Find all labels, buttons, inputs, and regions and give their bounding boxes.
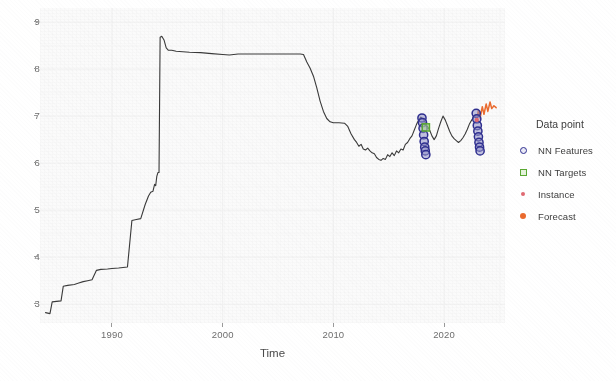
legend-title: Data point [536,118,616,130]
legend-marker-glyph [520,213,526,219]
legend-key-open-square-icon [514,163,532,181]
gridlines [40,8,505,323]
marker-nn-features [422,151,430,159]
y-tick-mark [34,162,38,163]
x-tick-label: 1990 [82,329,142,340]
x-axis-title: Time [40,347,505,359]
x-tick-mark [444,323,445,327]
y-tick: 6 [0,157,40,169]
legend-item-forecast[interactable]: Forecast [536,205,616,227]
series-history [46,36,477,313]
legend-marker-glyph [521,192,525,196]
y-tick: 3 [0,298,40,310]
legend-item-label: Instance [538,189,575,200]
x-tick-label: 2020 [414,329,474,340]
legend-item-nn-targets[interactable]: NN Targets [536,161,616,183]
y-tick: 8 [0,63,40,75]
y-tick-mark [34,115,38,116]
y-tick: 5 [0,204,40,216]
legend-item-label: Forecast [538,211,576,222]
y-tick: 7 [0,110,40,122]
legend: Data point NN FeaturesNN TargetsInstance… [536,118,616,227]
legend-item-nn-features[interactable]: NN Features [536,139,616,161]
x-tick-mark [111,323,112,327]
legend-marker-glyph [520,169,527,176]
y-tick-mark [34,209,38,210]
marker-nn-targets [422,124,429,131]
legend-item-instance[interactable]: Instance [536,183,616,205]
y-tick-mark [34,21,38,22]
legend-key-filled-dot-icon [514,207,532,225]
legend-item-label: NN Targets [538,167,586,178]
x-tick-mark [333,323,334,327]
x-tick-label: 2010 [303,329,363,340]
plot-panel [40,8,505,323]
legend-items: NN FeaturesNN TargetsInstanceForecast [536,139,616,227]
y-tick-mark [34,303,38,304]
chart-root: 3456789 1990200020102020 Time Data point… [0,0,616,381]
y-tick: 4 [0,251,40,263]
legend-key-open-circle-icon [514,141,532,159]
y-tick: 9 [0,16,40,28]
legend-key-small-dot-icon [514,185,532,203]
marker-instance [475,118,479,122]
plot-canvas [40,8,505,323]
y-tick-mark [34,68,38,69]
legend-item-label: NN Features [538,145,593,156]
x-tick-label: 2000 [193,329,253,340]
legend-marker-glyph [520,147,527,154]
marker-nn-features [476,147,484,155]
x-tick-mark [222,323,223,327]
y-tick-mark [34,256,38,257]
